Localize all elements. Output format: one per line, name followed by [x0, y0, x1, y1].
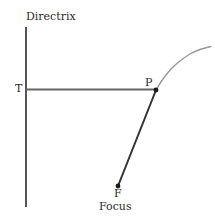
geometry-layer	[26, 27, 211, 207]
point-p-label: P	[145, 77, 152, 88]
directrix-label: Directrix	[26, 11, 76, 22]
parabola-diagram: Directrix T P F Focus	[0, 0, 215, 220]
point-f-label: F	[114, 188, 122, 199]
point-p-marker	[154, 88, 159, 93]
segment-p-to-f	[118, 90, 156, 186]
focus-caption: Focus	[99, 201, 132, 212]
parabola-curve	[156, 47, 211, 91]
point-t-label: T	[15, 83, 22, 94]
diagram-canvas	[0, 0, 215, 220]
